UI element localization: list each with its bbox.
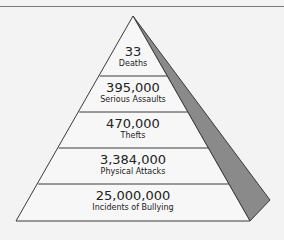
tier-thefts: 470,000 Thefts <box>0 117 266 141</box>
tier-value: 3,384,000 <box>0 153 266 167</box>
tier-name: Physical Attacks <box>0 167 266 177</box>
tier-value: 25,000,000 <box>0 189 266 203</box>
tier-name: Thefts <box>0 131 266 141</box>
tier-deaths: 33 Deaths <box>0 45 266 69</box>
tier-value: 33 <box>0 45 266 59</box>
tier-name: Incidents of Bullying <box>0 203 266 213</box>
tier-serious-assaults: 395,000 Serious Assaults <box>0 81 266 105</box>
tier-value: 470,000 <box>0 117 266 131</box>
tier-value: 395,000 <box>0 81 266 95</box>
tier-name: Serious Assaults <box>0 95 266 105</box>
tier-bullying: 25,000,000 Incidents of Bullying <box>0 189 266 213</box>
tier-name: Deaths <box>0 59 266 69</box>
tier-physical-attacks: 3,384,000 Physical Attacks <box>0 153 266 177</box>
